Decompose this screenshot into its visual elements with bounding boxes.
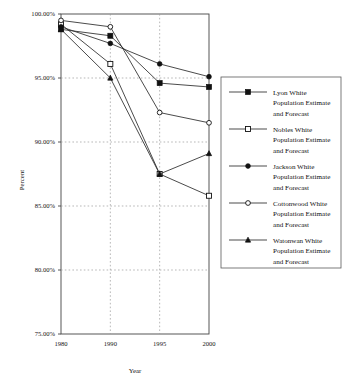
series-lyon bbox=[59, 27, 212, 90]
legend-item-cottonwood[interactable]: Cottonwood WhitePopulation Estimateand F… bbox=[229, 200, 330, 229]
y-tick-label: 75.00% bbox=[35, 330, 56, 337]
series-nobles bbox=[59, 22, 212, 199]
x-tick-label: 2000 bbox=[202, 340, 216, 347]
y-tick-label: 85.00% bbox=[35, 202, 56, 209]
legend-label: Cottonwood White bbox=[273, 200, 327, 208]
data-point-marker bbox=[108, 41, 113, 46]
y-tick-label: 95.00% bbox=[35, 74, 56, 81]
legend-label: Population Estimate bbox=[273, 99, 330, 107]
data-point-marker bbox=[207, 84, 212, 89]
series-watonwan bbox=[58, 26, 211, 176]
data-point-marker bbox=[207, 193, 212, 198]
legend-item-watonwan[interactable]: Watonwan WhitePopulation Estimateand For… bbox=[229, 237, 330, 266]
plot-area-frame bbox=[61, 14, 209, 334]
vertical-gridlines bbox=[110, 14, 159, 334]
legend-label: Population Estimate bbox=[273, 136, 330, 144]
data-point-marker bbox=[206, 151, 211, 156]
legend-label: and Forecast bbox=[273, 147, 309, 155]
data-point-marker bbox=[108, 61, 113, 66]
data-point-marker bbox=[108, 24, 113, 29]
data-point-marker bbox=[157, 62, 162, 67]
data-point-marker bbox=[108, 33, 113, 38]
x-tick-label: 1995 bbox=[153, 340, 167, 347]
x-tick-label: 1990 bbox=[104, 340, 118, 347]
y-tick-label: 90.00% bbox=[35, 138, 56, 145]
y-tick-label: 100.00% bbox=[31, 10, 55, 17]
legend-item-jackson[interactable]: Jackson WhitePopulation Estimateand Fore… bbox=[229, 163, 330, 192]
data-point-marker bbox=[157, 81, 162, 86]
horizontal-gridlines bbox=[61, 78, 209, 270]
y-axis-ticks: 100.00%95.00%90.00%85.00%80.00%75.00% bbox=[31, 10, 61, 337]
x-axis-title: Year bbox=[129, 367, 142, 374]
legend-label: Population Estimate bbox=[273, 210, 330, 218]
data-point-marker bbox=[157, 110, 162, 115]
legend-entries: Lyon WhitePopulation Estimateand Forecas… bbox=[229, 89, 330, 266]
legend-item-lyon[interactable]: Lyon WhitePopulation Estimateand Forecas… bbox=[229, 89, 330, 118]
data-point-marker bbox=[246, 90, 251, 95]
y-tick-label: 80.00% bbox=[35, 266, 56, 273]
legend-label: and Forecast bbox=[273, 184, 309, 192]
legend-label: and Forecast bbox=[273, 110, 309, 118]
legend-label: Nobles White bbox=[273, 126, 312, 134]
data-point-marker bbox=[207, 120, 212, 125]
legend-item-nobles[interactable]: Nobles WhitePopulation Estimateand Forec… bbox=[229, 126, 330, 155]
legend-label: and Forecast bbox=[273, 221, 309, 229]
data-point-marker bbox=[207, 74, 212, 79]
series-layer bbox=[58, 18, 211, 198]
legend-label: Watonwan White bbox=[273, 237, 322, 245]
legend-label: Population Estimate bbox=[273, 247, 330, 255]
x-axis-ticks: 1980199019952000 bbox=[54, 340, 216, 347]
legend-label: and Forecast bbox=[273, 258, 309, 266]
data-point-marker bbox=[246, 164, 251, 169]
x-tick-label: 1980 bbox=[54, 340, 68, 347]
legend-label: Jackson White bbox=[273, 163, 314, 171]
data-point-marker bbox=[59, 18, 64, 23]
legend-label: Lyon White bbox=[273, 89, 307, 97]
data-point-marker bbox=[246, 127, 251, 132]
legend-label: Population Estimate bbox=[273, 173, 330, 181]
series-jackson bbox=[59, 24, 212, 79]
y-axis-title: Percent bbox=[18, 170, 25, 190]
chart-figure: 100.00%95.00%90.00%85.00%80.00%75.00% 19… bbox=[0, 0, 344, 391]
data-point-marker bbox=[246, 201, 251, 206]
